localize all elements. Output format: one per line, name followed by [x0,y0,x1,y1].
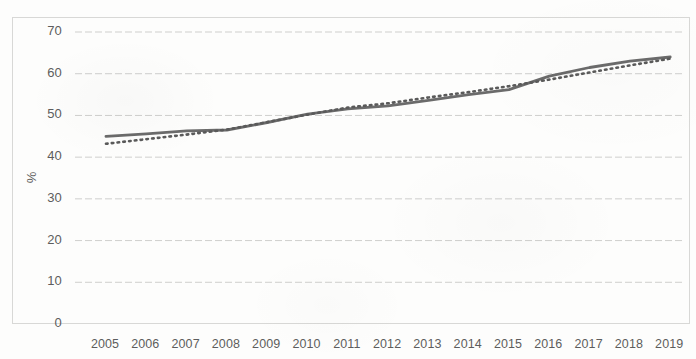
x-tick-label: 2006 [125,337,165,351]
x-tick-label: 2007 [166,337,206,351]
y-tick-label: 60 [22,65,62,80]
y-tick-label: 50 [22,106,62,121]
y-tick-label: 70 [22,23,62,38]
x-tick-label: 2012 [367,337,407,351]
y-tick-label: 20 [22,232,62,247]
y-tick-label: 0 [22,315,62,330]
x-tick-label: 2017 [569,337,609,351]
y-axis-title: % [24,172,39,184]
x-tick-label: 2016 [528,337,568,351]
x-tick-label: 2018 [609,337,649,351]
plot-svg [13,18,689,323]
x-tick-label: 2005 [85,337,125,351]
y-tick-label: 40 [22,148,62,163]
x-tick-label: 2014 [448,337,488,351]
y-tick-label: 30 [22,190,62,205]
x-tick-label: 2019 [649,337,689,351]
x-tick-label: 2013 [407,337,447,351]
x-tick-label: 2009 [246,337,286,351]
x-tick-label: 2015 [488,337,528,351]
plot-area [12,17,690,324]
x-tick-label: 2008 [206,337,246,351]
x-tick-label: 2010 [287,337,327,351]
y-tick-label: 10 [22,273,62,288]
line-chart: % 706050403020100 2005200620072008200920… [0,0,696,359]
series-line-solid-line [106,57,670,136]
x-tick-label: 2011 [327,337,367,351]
